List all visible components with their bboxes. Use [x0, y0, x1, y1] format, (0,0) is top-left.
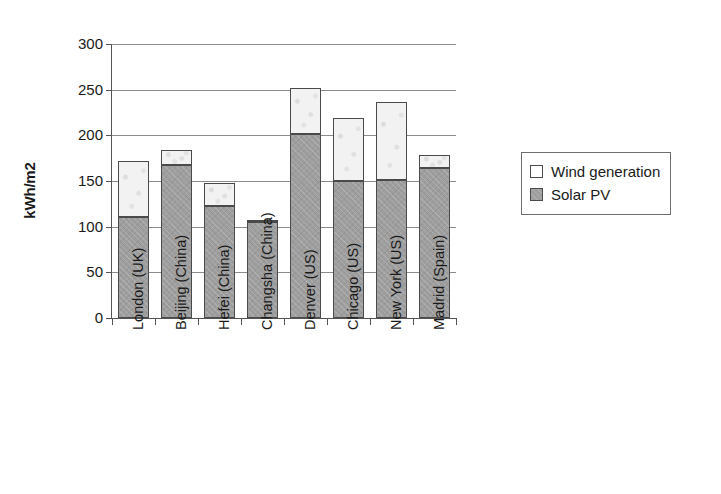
legend-item: Solar PV [530, 183, 660, 206]
legend-swatch-solar-icon [530, 188, 543, 201]
x-axis-tick-label-text: Hefei (China) [216, 245, 232, 330]
y-axis-tick-label: 250 [57, 82, 103, 97]
chart-legend: Wind generationSolar PV [521, 152, 671, 215]
y-axis-tick-label: 100 [57, 219, 103, 234]
x-axis-tick-label-text: Denver (US) [302, 249, 318, 330]
y-axis-tick-label: 50 [57, 264, 103, 279]
legend-item: Wind generation [530, 160, 660, 183]
x-axis-tick-mark [155, 318, 156, 325]
x-axis-tick-mark [327, 318, 328, 325]
x-axis-tick-label: Madrid (Spain) [426, 330, 521, 480]
bars-layer [112, 44, 456, 318]
y-axis-title-text: kWh/m2 [21, 162, 38, 218]
plot-area [111, 44, 456, 319]
legend-swatch-wind-icon [530, 165, 543, 178]
y-axis-tick-label: 150 [57, 173, 103, 188]
y-axis-tick-label: 0 [57, 310, 103, 325]
x-axis-tick-label-text: Beijing (China) [173, 235, 189, 330]
x-axis-tick-label-text: Chicago (US) [345, 243, 361, 330]
x-axis-tick-label-text: Madrid (Spain) [431, 235, 447, 330]
x-axis-tick-mark [241, 318, 242, 325]
x-axis-tick-mark [413, 318, 414, 325]
x-axis-tick-label-text: London (UK) [130, 248, 146, 330]
x-axis-tick-mark [198, 318, 199, 325]
x-axis-tick-mark [112, 318, 113, 325]
y-axis-title: kWh/m2 [14, 120, 44, 260]
x-axis-tick-mark [370, 318, 371, 325]
bar-segment-wind-generation [204, 183, 235, 206]
bar-segment-wind-generation [161, 150, 192, 166]
bar-segment-wind-generation [118, 161, 149, 217]
x-axis-tick-label-text: Changsha (China) [259, 212, 275, 330]
bar-segment-wind-generation [333, 118, 364, 181]
legend-item-label: Solar PV [551, 186, 610, 203]
stacked-bar-chart: kWh/m2 050100150200250300 London (UK)Bei… [0, 0, 721, 494]
bar-segment-wind-generation [419, 155, 450, 169]
legend-item-label: Wind generation [551, 163, 660, 180]
x-axis-tick-mark [284, 318, 285, 325]
x-axis-tick-label-text: New York (US) [388, 235, 404, 330]
x-axis-tick-mark [456, 318, 457, 325]
y-axis-tick-label: 300 [57, 36, 103, 51]
y-axis-tick-label: 200 [57, 127, 103, 142]
bar-segment-wind-generation [290, 88, 321, 135]
bar-segment-wind-generation [376, 102, 407, 181]
